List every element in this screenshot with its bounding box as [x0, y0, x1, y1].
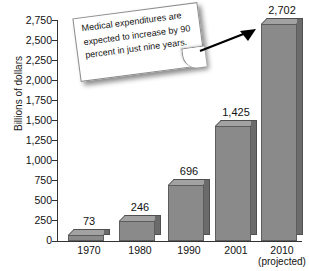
y-tick-label: 1,500	[6, 115, 52, 125]
y-tick-label: 2,500	[6, 35, 52, 45]
bar-front-face	[68, 235, 104, 241]
y-tick-label: 1,250	[6, 135, 52, 145]
bar-front-face	[119, 221, 155, 241]
bar-front-face	[261, 24, 297, 241]
bar-side-face	[155, 215, 161, 235]
bar-value-label: 2,702	[247, 4, 309, 16]
bar-value-label: 696	[154, 165, 224, 177]
x-tick-text: 2010	[270, 244, 293, 256]
y-tick-label: 2,750	[6, 15, 52, 25]
x-tick-label-2010: 2010 (projected)	[244, 244, 309, 268]
x-tick-sub: (projected)	[244, 256, 309, 268]
x-axis-tick-labels: 1970 1980 1990 2001 2010 (projected)	[57, 244, 307, 271]
bar-value-label: 246	[105, 201, 175, 213]
bar-front-face	[168, 185, 204, 241]
y-tick-label: 0	[6, 235, 52, 245]
x-tick-text: 1980	[128, 244, 151, 256]
y-tick-label: 250	[6, 215, 52, 225]
bar-front-face	[215, 126, 251, 241]
bar-side-face	[104, 229, 110, 235]
y-tick-label: 750	[6, 175, 52, 185]
y-tick-label: 1,000	[6, 155, 52, 165]
y-tick-label: 1,750	[6, 95, 52, 105]
bar-side-face	[204, 179, 210, 235]
y-tick-label: 2,000	[6, 75, 52, 85]
bar-side-face	[251, 120, 257, 235]
y-tick-label: 2,250	[6, 55, 52, 65]
x-axis-line	[52, 241, 302, 242]
bar-side-face	[297, 18, 303, 235]
y-tick-label: 500	[6, 195, 52, 205]
callout-arrow-icon	[198, 28, 260, 54]
bar-value-label: 73	[54, 215, 124, 227]
x-tick-text: 1970	[77, 244, 100, 256]
chart-container: Billions of dollars 2,750 2,500 2,250 2,…	[0, 0, 309, 271]
y-axis-tick-labels: 2,750 2,500 2,250 2,000 1,750 1,500 1,25…	[0, 20, 52, 241]
